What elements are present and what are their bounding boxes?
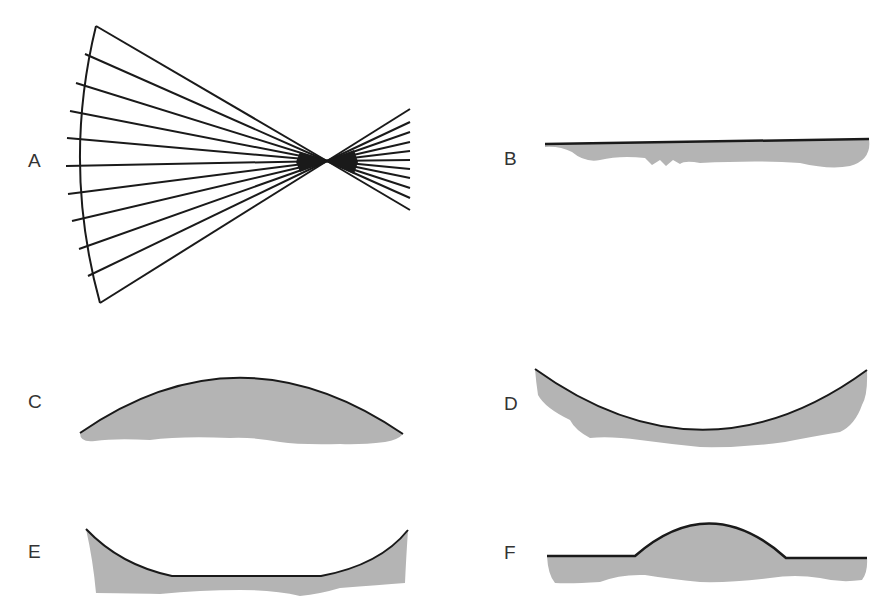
panel-c-convex-surface (80, 378, 403, 445)
panel-a-ray-fan (66, 26, 410, 303)
panel-b-flat-surface (545, 139, 869, 167)
panel-e-flat-bottom-surface (86, 529, 408, 596)
diagram-canvas (0, 0, 894, 613)
panel-d-concave-surface (535, 369, 867, 447)
panel-f-bump-surface (547, 523, 867, 583)
